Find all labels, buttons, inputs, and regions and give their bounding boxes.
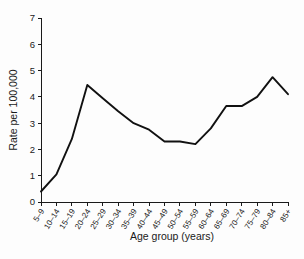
x-tick-label: 85+: [278, 207, 293, 224]
line-chart: 01234567 5–910–1415–1920–2425–2930–3435–…: [0, 0, 304, 259]
x-tick-label: 5–9: [31, 207, 46, 224]
x-axis: 5–910–1415–1920–2425–2930–3435–3940–4445…: [31, 202, 293, 231]
y-tick-label: 2: [30, 144, 35, 155]
y-tick-label: 4: [30, 91, 35, 102]
data-series: [41, 77, 288, 191]
y-tick-label: 5: [30, 65, 35, 76]
figure-container: 01234567 5–910–1415–1920–2425–2930–3435–…: [0, 0, 304, 259]
y-tick-label: 1: [30, 170, 35, 181]
y-axis-title: Rate per 100,000: [7, 69, 19, 150]
y-tick-label: 6: [30, 39, 35, 50]
y-axis: 01234567: [30, 12, 41, 207]
series-line: [41, 77, 288, 191]
y-tick-label: 3: [30, 118, 35, 129]
y-tick-label: 7: [30, 12, 35, 23]
x-axis-title: Age group (years): [130, 230, 214, 242]
y-tick-label: 0: [30, 196, 35, 207]
x-tick-label: 80–84: [258, 207, 278, 231]
